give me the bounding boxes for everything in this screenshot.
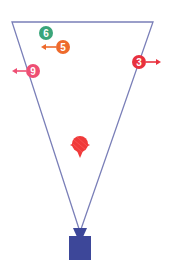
ball-icon[interactable] <box>70 136 90 158</box>
post <box>69 228 91 260</box>
player-label-9: 9 <box>30 66 36 77</box>
player-label-5: 5 <box>60 42 66 53</box>
player-marker-6[interactable]: 6 <box>39 26 53 40</box>
post-body <box>69 236 91 260</box>
player-marker-5[interactable]: 5 <box>41 40 70 54</box>
player-label-3: 3 <box>136 57 142 68</box>
diagram-canvas: 6 5 9 3 <box>0 0 170 276</box>
field-triangle <box>12 22 153 232</box>
arrow-right-icon <box>146 59 161 65</box>
player-marker-3[interactable]: 3 <box>132 55 161 69</box>
arrow-left-icon <box>41 44 56 50</box>
player-label-6: 6 <box>43 28 49 39</box>
arrow-left-icon <box>12 68 26 74</box>
post-cap <box>73 228 87 237</box>
